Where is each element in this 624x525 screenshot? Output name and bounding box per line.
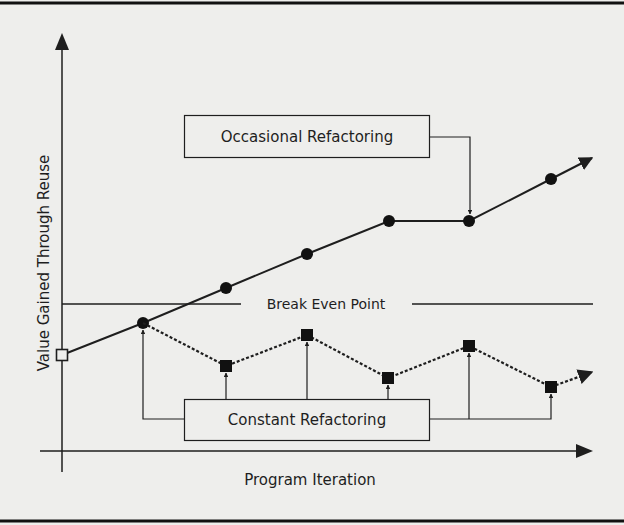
- constant-point: [545, 381, 557, 393]
- occasional-point: [545, 173, 557, 185]
- break-even-label: Break Even Point: [267, 296, 386, 312]
- occasional-point: [301, 248, 313, 260]
- start-point: [57, 350, 68, 361]
- occasional-arrow-icon: [551, 158, 592, 179]
- constant-arrow-icon: [551, 372, 592, 387]
- constant-connector: [143, 330, 184, 419]
- refactoring-value-diagram: Program Iteration Value Gained Through R…: [0, 0, 624, 525]
- y-axis-arrow-icon: [55, 33, 69, 50]
- x-axis-arrow-icon: [576, 444, 593, 458]
- constant-series: [143, 323, 592, 393]
- occasional-refactoring-label: Occasional Refactoring: [221, 128, 393, 146]
- x-axis-label: Program Iteration: [244, 471, 376, 489]
- occasional-point: [463, 215, 475, 227]
- y-axis: [55, 33, 69, 472]
- constant-refactoring-label: Constant Refactoring: [228, 411, 386, 429]
- constant-point: [220, 360, 232, 372]
- constant-refactoring-callout: Constant Refactoring: [143, 330, 551, 441]
- constant-point: [382, 372, 394, 384]
- diagram-stage: Program Iteration Value Gained Through R…: [0, 0, 624, 525]
- constant-point: [301, 329, 313, 341]
- constant-connector: [430, 394, 551, 419]
- occasional-point: [220, 282, 232, 294]
- occasional-refactoring-callout: Occasional Refactoring: [185, 116, 471, 215]
- constant-point: [463, 340, 475, 352]
- occasional-connector: [430, 137, 470, 214]
- occasional-point: [383, 215, 395, 227]
- x-axis: [40, 444, 593, 458]
- y-axis-label: Value Gained Through Reuse: [35, 155, 53, 371]
- occasional-series: [62, 158, 592, 355]
